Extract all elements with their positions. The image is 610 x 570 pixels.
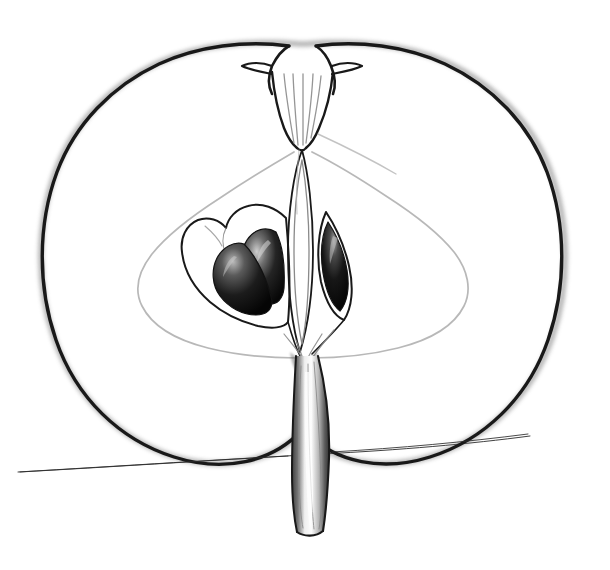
apple-cross-section-illustration: Apple Halved Lengthwise — Botanical Penc… [0,0,610,570]
drawing-canvas: Apple Halved Lengthwise — Botanical Penc… [0,0,610,570]
stem [292,356,329,536]
